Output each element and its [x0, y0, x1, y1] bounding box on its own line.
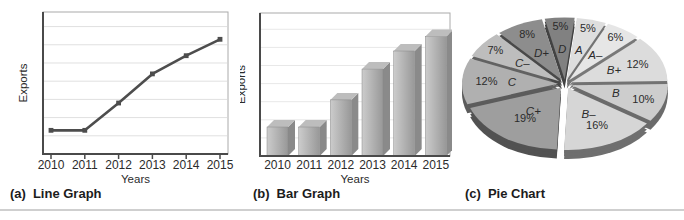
x-tick-label: 2011 [296, 158, 322, 172]
data-point [82, 128, 87, 133]
y-axis-title: Exports [240, 65, 247, 104]
y-axis-title: Exports [17, 63, 29, 102]
pie-chart-panel: 5%D5%A6%A–12%B+10%B16%B–19%C+12%C7%C–8%D… [452, 0, 684, 190]
pie-percent-label: 5% [552, 20, 568, 32]
x-tick-label: 2014 [391, 158, 418, 172]
data-point [184, 53, 189, 58]
pie-percent-label: 8% [519, 28, 535, 40]
caption-label: Bar Graph [277, 186, 341, 201]
bar [299, 127, 320, 156]
x-axis-title: Years [121, 173, 150, 185]
pie-grade-label: B+ [607, 64, 622, 76]
x-tick-label: 2010 [264, 158, 291, 172]
bar [267, 127, 288, 156]
x-tick-label: 2013 [139, 158, 166, 172]
pie-percent-label: 10% [632, 93, 654, 105]
pie-percent-label: 16% [586, 119, 608, 131]
pie-percent-label: 12% [626, 58, 648, 70]
pie-grade-label: A– [587, 49, 603, 61]
x-tick-label: 2015 [207, 158, 234, 172]
x-tick-label: 2010 [38, 158, 65, 172]
pie-grade-label: D+ [534, 47, 549, 59]
caption-label: Pie Chart [488, 186, 545, 201]
caption-prefix: (a) [10, 186, 26, 201]
plot-frame [43, 12, 228, 154]
caption-prefix: (c) [465, 186, 481, 201]
data-line [51, 39, 220, 130]
caption-line-graph: (a) Line Graph [10, 186, 102, 201]
pie-grade-label: B [612, 87, 620, 99]
pie-percent-label: 7% [487, 44, 503, 56]
pie-grade-label: D [558, 43, 566, 55]
caption-prefix: (b) [253, 186, 270, 201]
caption-pie-chart: (c) Pie Chart [465, 186, 545, 201]
pie-grade-label: B– [582, 108, 597, 120]
line-graph-canvas: 201020112012201320142015YearsExports [0, 0, 240, 190]
x-axis-title: Years [341, 173, 370, 185]
bottom-divider [0, 209, 684, 211]
x-tick-label: 2012 [327, 158, 354, 172]
line-graph-panel: 201020112012201320142015YearsExports [0, 0, 240, 190]
pie-grade-label: A [574, 44, 583, 56]
pie-percent-label: 5% [580, 22, 596, 34]
pie-grade-label: C+ [526, 105, 541, 117]
bar-side-face [351, 93, 358, 156]
bar-side-face [415, 44, 422, 156]
x-tick-label: 2011 [72, 158, 98, 172]
pie-grade-label: C– [515, 57, 530, 69]
x-tick-label: 2015 [422, 158, 449, 172]
data-point [150, 71, 155, 76]
caption-label: Line Graph [33, 186, 102, 201]
x-tick-label: 2014 [173, 158, 200, 172]
data-point [49, 128, 54, 133]
pie-percent-label: 6% [608, 31, 624, 43]
bar [394, 51, 415, 156]
x-tick-label: 2012 [105, 158, 132, 172]
data-point [116, 101, 121, 106]
bar [362, 69, 383, 156]
bar-side-face [383, 62, 390, 156]
data-point [218, 37, 223, 42]
bar [330, 100, 351, 156]
bar-graph-panel: 201020112012201320142015YearsExports [240, 0, 452, 190]
bar [425, 37, 446, 156]
pie-percent-label: 12% [475, 75, 497, 87]
caption-bar-graph: (b) Bar Graph [253, 186, 340, 201]
pie-grade-label: C [508, 76, 517, 88]
x-tick-label: 2013 [359, 158, 386, 172]
bar-graph-canvas: 201020112012201320142015YearsExports [240, 0, 452, 190]
pie-chart-canvas: 5%D5%A6%A–12%B+10%B16%B–19%C+12%C7%C–8%D… [452, 0, 684, 190]
